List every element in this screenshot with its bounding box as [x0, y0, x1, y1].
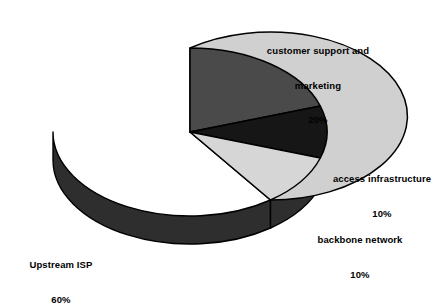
- slice-label-customer-support: customer support and marketing 20%: [246, 22, 390, 149]
- slice-label-access-infrastructure-line1: access infrastructure: [321, 173, 443, 185]
- slice-value-backbone-network: 10%: [299, 269, 421, 281]
- slice-value-upstream-isp: 60%: [6, 294, 116, 306]
- slice-label-customer-support-line2: marketing: [246, 80, 390, 92]
- slice-label-upstream-isp: Upstream ISP 60%: [6, 236, 116, 307]
- slice-value-customer-support: 20%: [246, 114, 390, 126]
- slice-label-customer-support-line1: customer support and: [246, 45, 390, 57]
- slice-label-backbone-network-line1: backbone network: [299, 234, 421, 246]
- slice-label-upstream-isp-line1: Upstream ISP: [6, 259, 116, 271]
- slice-label-backbone-network: backbone network 10%: [299, 211, 421, 303]
